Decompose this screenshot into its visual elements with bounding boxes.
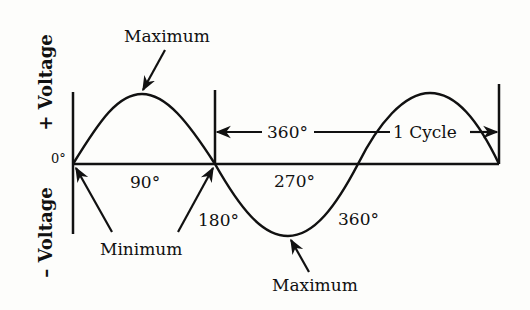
angle-90-label: 90° xyxy=(130,174,160,191)
cycle-span-degrees-label: 360° xyxy=(266,124,309,141)
angle-180-label: 180° xyxy=(198,212,239,229)
negative-voltage-label: – Voltage xyxy=(35,183,56,283)
angle-270-label: 270° xyxy=(274,173,315,190)
top-maximum-arrow xyxy=(143,50,165,90)
top-maximum-label: Maximum xyxy=(124,28,210,45)
origin-degree-label: 0° xyxy=(51,152,66,165)
angle-360-label: 360° xyxy=(338,211,379,228)
minimum-label: Minimum xyxy=(100,241,182,258)
positive-voltage-label: + Voltage xyxy=(35,33,56,133)
bottom-maximum-label: Maximum xyxy=(272,277,358,294)
bottom-maximum-arrow xyxy=(291,240,309,272)
ac-waveform-diagram: + Voltage – Voltage 0° Maximum Maximum M… xyxy=(0,0,530,310)
one-cycle-label: 1 Cycle xyxy=(392,124,458,141)
minimum-arrow-left xyxy=(76,168,112,232)
waveform-graphic xyxy=(0,0,530,310)
